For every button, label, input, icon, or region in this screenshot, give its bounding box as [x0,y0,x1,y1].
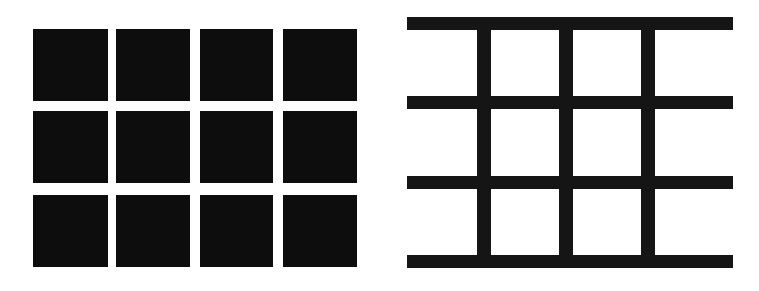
grid-bar-vertical-2 [559,17,573,268]
square-tile-9 [33,195,108,267]
square-tile-6 [116,111,190,183]
grid-bar-vertical-1 [477,17,491,268]
figure-canvas [0,0,759,291]
square-tile-10 [116,195,190,267]
square-tile-12 [283,195,357,267]
square-tile-5 [33,111,108,183]
square-tile-1 [33,29,108,101]
square-tile-2 [116,29,190,101]
square-tile-7 [200,111,273,183]
square-tile-3 [200,29,273,101]
square-tile-11 [200,195,273,267]
square-tile-8 [283,111,357,183]
square-tile-4 [283,29,357,101]
grid-bar-vertical-3 [641,17,655,268]
